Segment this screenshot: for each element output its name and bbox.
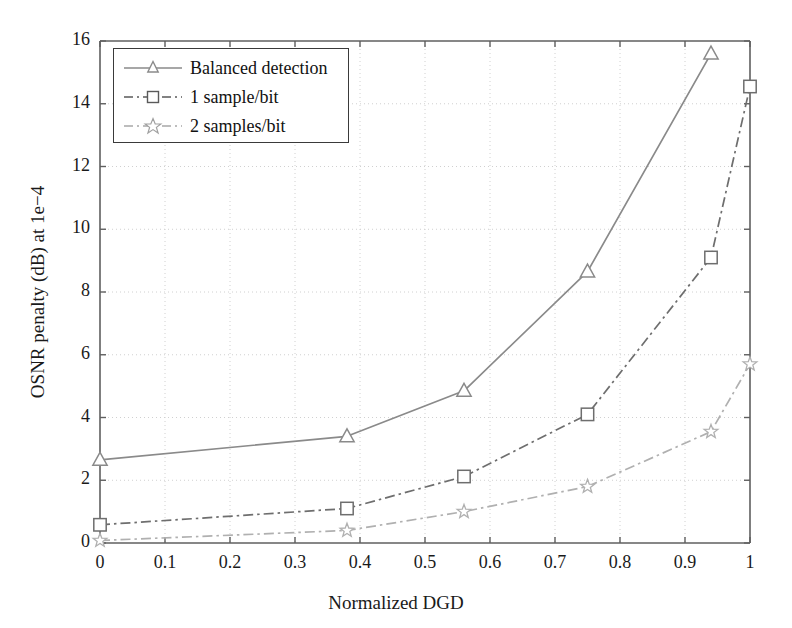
legend-swatch-square-icon [122,84,184,110]
x-axis-label: Normalized DGD [0,592,792,614]
y-tick-label: 4 [34,406,90,427]
legend-item-2-samples-bit: 2 samples/bit [122,111,286,141]
x-tick-label: 0.7 [525,552,585,573]
x-tick-label: 1 [720,552,780,573]
legend-swatch-triangle-icon [122,55,184,81]
y-tick-label: 16 [34,29,90,50]
y-tick-label: 0 [34,531,90,552]
legend: Balanced detection 1 sample/bit 2 sample… [113,48,349,143]
x-tick-label: 0.4 [330,552,390,573]
legend-item-1-sample-bit: 1 sample/bit [122,82,279,112]
legend-label-1-sample-bit: 1 sample/bit [190,87,279,108]
legend-item-balanced-detection: Balanced detection [122,53,327,83]
y-axis-label: OSNR penalty (dB) at 1e−4 [27,186,49,398]
legend-label-2-samples-bit: 2 samples/bit [190,116,286,137]
legend-label-balanced-detection: Balanced detection [190,58,327,79]
x-tick-label: 0.5 [395,552,455,573]
x-tick-label: 0.6 [460,552,520,573]
x-tick-label: 0.8 [590,552,650,573]
legend-swatch-star-icon [122,113,184,139]
x-tick-label: 0 [70,552,130,573]
x-tick-label: 0.3 [265,552,325,573]
y-tick-label: 14 [34,92,90,113]
x-tick-label: 0.9 [655,552,715,573]
chart-figure: 0246810121416 00.10.20.30.40.50.60.70.80… [0,0,792,628]
y-tick-label: 12 [34,155,90,176]
x-tick-label: 0.2 [200,552,260,573]
y-tick-label: 2 [34,468,90,489]
x-tick-label: 0.1 [135,552,195,573]
